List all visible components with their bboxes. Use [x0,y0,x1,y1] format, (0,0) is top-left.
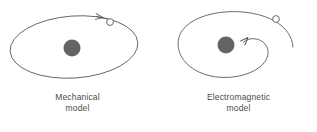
electromagnetic-electron [273,16,280,23]
mechanical-model-diagram [8,12,140,83]
mechanical-model-caption: Mechanical model [0,92,155,114]
electromagnetic-caption-line-2: model [160,103,317,114]
electromagnetic-caption-line-1: Electromagnetic [207,92,270,102]
electromagnetic-model-diagram [178,12,293,78]
mechanical-caption-line-2: model [0,103,155,114]
atom-models-figure: Mechanical model Electromagnetic model [0,0,317,132]
mechanical-electron [107,19,114,26]
electromagnetic-model-caption: Electromagnetic model [160,92,317,114]
electromagnetic-nucleus [218,37,235,54]
mechanical-caption-line-1: Mechanical [55,92,100,102]
mechanical-nucleus [64,40,81,57]
